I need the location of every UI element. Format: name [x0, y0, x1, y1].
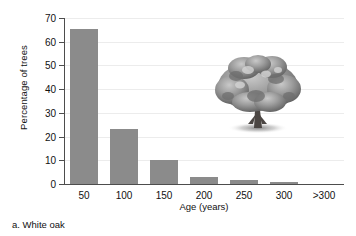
y-axis-tick-label: 60: [45, 36, 56, 47]
y-axis-tick-label: 30: [45, 107, 56, 118]
y-axis-tick-label: 20: [45, 131, 56, 142]
y-axis-tick: [59, 137, 64, 138]
x-axis-title: Age (years): [64, 201, 344, 212]
y-axis-tick-label: 50: [45, 60, 56, 71]
x-axis-line: [64, 184, 344, 185]
y-axis-tick: [59, 89, 64, 90]
bar: [150, 160, 178, 184]
bar: [110, 129, 138, 184]
x-axis-tick-label: >300: [313, 190, 336, 201]
figure-caption: a. White oak: [12, 219, 65, 230]
y-axis-title: Percentage of trees: [18, 18, 29, 158]
y-axis-tick-label: 70: [45, 13, 56, 24]
figure-white-oak: Percentage of trees 010203040506070 5010…: [0, 0, 356, 236]
x-axis-tick-label: 50: [78, 190, 89, 201]
y-axis-tick-label: 0: [50, 179, 56, 190]
gridline: [65, 160, 344, 161]
bar: [70, 29, 98, 184]
y-axis-tick-label: 40: [45, 84, 56, 95]
y-axis-tick: [59, 42, 64, 43]
gridline: [65, 18, 344, 19]
x-axis-tick-label: 300: [276, 190, 293, 201]
x-axis-tick-label: 250: [236, 190, 253, 201]
gridline: [65, 137, 344, 138]
x-axis-tick-label: 150: [156, 190, 173, 201]
gridline: [65, 42, 344, 43]
plot-area: 010203040506070 50100150200250300>300: [64, 18, 344, 185]
x-axis-tick-label: 100: [116, 190, 133, 201]
bar: [230, 180, 258, 184]
x-axis-tick-label: 200: [196, 190, 213, 201]
oak-tree-illustration: [210, 52, 306, 134]
y-axis-tick: [59, 113, 64, 114]
y-axis-tick: [59, 184, 64, 185]
y-axis-tick: [59, 160, 64, 161]
y-axis-tick: [59, 18, 64, 19]
bar: [190, 177, 218, 184]
y-axis-tick-label: 10: [45, 155, 56, 166]
y-axis-tick: [59, 65, 64, 66]
bar: [270, 182, 298, 184]
